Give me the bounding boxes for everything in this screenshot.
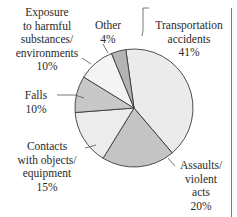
label-falls: Falls 10% bbox=[18, 89, 54, 116]
label-transportation: Transportation accidents 41% bbox=[146, 19, 232, 60]
page-margin-rule bbox=[231, 8, 232, 217]
label-assaults: Assaults/ violent acts 20% bbox=[176, 159, 226, 213]
label-contacts: Contacts with objects/ equipment 15% bbox=[10, 140, 84, 194]
leader-assaults bbox=[168, 158, 175, 166]
label-exposure: Exposure to harmful substances/ environm… bbox=[10, 6, 84, 74]
pie-chart: Exposure to harmful substances/ environm… bbox=[0, 0, 237, 217]
label-other: Other 4% bbox=[90, 19, 126, 46]
